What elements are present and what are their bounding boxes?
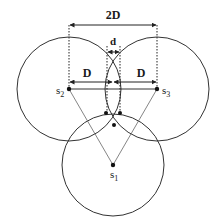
sensor-s3-label: s3 — [162, 84, 170, 99]
sensor-s2-dot — [67, 87, 71, 91]
trilateration-diagram: 2D d D D s2 s3 s1 — [0, 0, 219, 223]
sensor-s1-dot — [111, 163, 115, 167]
sensor-s3-dot — [155, 87, 159, 91]
d-label: d — [110, 35, 116, 47]
d-right-label: D — [137, 66, 146, 80]
intersection-bottom-dot — [112, 123, 116, 127]
sensor-s2-label: s2 — [56, 84, 64, 99]
intersection-right-dot — [118, 111, 122, 115]
two-d-label: 2D — [106, 8, 121, 22]
d-left-label: D — [83, 66, 92, 80]
intersection-left-dot — [104, 111, 108, 115]
sensor-s1-label: s1 — [110, 168, 118, 183]
